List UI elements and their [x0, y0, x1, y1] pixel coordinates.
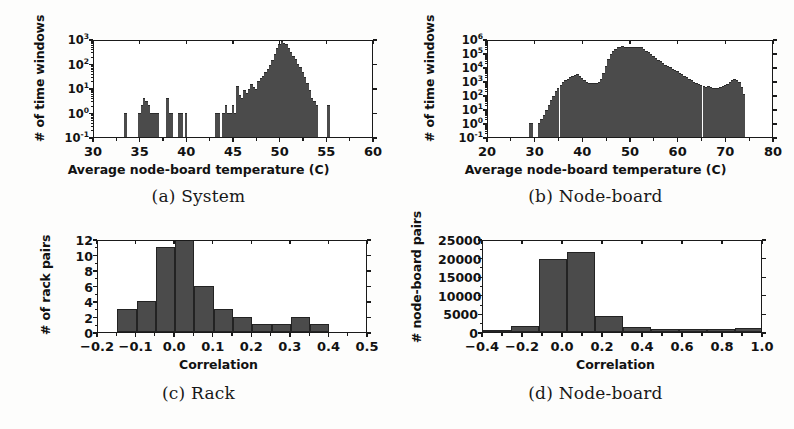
x-tick [279, 138, 280, 142]
panel-c-y-axis-title: # of rack pairs [38, 235, 53, 335]
y-minor-tick [485, 101, 488, 102]
y-minor-tick [485, 131, 488, 132]
x-tick [601, 333, 602, 337]
y-tick-label: 103 [49, 33, 89, 47]
y-tick-label: 2 [53, 310, 93, 325]
x-tick-top [139, 40, 140, 44]
y-tick-right [367, 301, 371, 302]
bar [124, 113, 126, 138]
y-tick-label: 20000 [438, 251, 478, 266]
y-minor-tick [91, 49, 94, 50]
x-minor-tick [349, 138, 350, 141]
x-tick-label: 50 [271, 144, 289, 159]
x-tick-top [173, 240, 174, 244]
x-tick [521, 333, 522, 337]
panel-b-caption: (b) Node-board [397, 186, 794, 206]
y-minor-tick [91, 69, 94, 70]
x-tick-label: −0.2 [505, 339, 539, 354]
x-minor-tick [558, 138, 559, 141]
y-minor-tick [91, 94, 94, 95]
y-tick-label: 10 [53, 248, 93, 263]
bar [185, 113, 187, 138]
y-tick-label: 10-1 [49, 131, 89, 145]
y-minor-tick [91, 106, 94, 107]
x-minor-tick [701, 138, 702, 141]
bar [214, 309, 233, 332]
y-tick-label: 8 [53, 264, 93, 279]
y-tick [93, 286, 97, 287]
x-tick [366, 333, 367, 337]
x-tick-label: 0.0 [550, 339, 573, 354]
x-tick-label: −0.2 [80, 339, 114, 354]
y-minor-tick [485, 63, 488, 64]
y-minor-tick [485, 86, 488, 87]
panel-c: # of rack pairs 024681012 −0.2−0.10.00.1… [0, 215, 397, 429]
x-tick-label: 0.5 [355, 339, 378, 354]
y-minor-tick [91, 45, 94, 46]
x-minor-tick [606, 138, 607, 141]
bar [291, 317, 310, 333]
y-minor-tick [485, 119, 488, 120]
bar [327, 105, 329, 137]
bar [511, 326, 539, 332]
x-minor-tick [302, 138, 303, 141]
x-tick-top [279, 40, 280, 44]
x-tick-top [582, 40, 583, 44]
panel-a-bars [94, 41, 372, 137]
y-minor-tick [485, 128, 488, 129]
x-tick-label: −0.1 [119, 339, 153, 354]
y-minor-tick [91, 52, 94, 53]
y-tick-right [367, 317, 371, 318]
bar [743, 94, 745, 137]
y-minor-tick [91, 65, 94, 66]
x-tick-top [212, 240, 213, 244]
panel-d-caption: (d) Node-board [397, 383, 794, 403]
y-minor-tick [95, 263, 98, 264]
x-tick-top [96, 240, 97, 244]
y-minor-tick [485, 68, 488, 69]
x-minor-tick [231, 333, 232, 336]
y-minor-tick [485, 103, 488, 104]
x-tick-label: 80 [764, 144, 782, 159]
panel-a: # of time windows 10-1100101102103 30354… [0, 0, 397, 215]
bar [623, 327, 651, 332]
y-minor-tick [91, 57, 94, 58]
panel-b-y-axis-title: # of time windows [422, 15, 437, 142]
x-tick-top [725, 40, 726, 44]
x-tick-label: 35 [131, 144, 149, 159]
bar [137, 301, 156, 332]
bar [156, 247, 175, 332]
y-tick-label: 10-1 [443, 131, 483, 145]
x-minor-tick [741, 333, 742, 336]
x-tick [681, 333, 682, 337]
bar [180, 113, 182, 138]
x-tick-label: 0.2 [240, 339, 263, 354]
y-tick-right [762, 258, 766, 259]
y-minor-tick [485, 57, 488, 58]
x-tick-top [534, 40, 535, 44]
y-tick-label: 5000 [438, 307, 478, 322]
y-minor-tick [91, 98, 94, 99]
x-minor-tick [541, 333, 542, 336]
panel-a-y-axis-title: # of time windows [32, 15, 47, 142]
bar [233, 317, 252, 333]
y-minor-tick [480, 305, 483, 306]
x-tick [139, 138, 140, 142]
x-minor-tick [581, 333, 582, 336]
y-tick-label: 106 [443, 33, 483, 47]
panel-d-plot-area [482, 240, 762, 333]
y-minor-tick [91, 77, 94, 78]
y-tick-label: 15000 [438, 270, 478, 285]
y-minor-tick [485, 113, 488, 114]
x-tick [641, 333, 642, 337]
y-minor-tick [91, 117, 94, 118]
x-tick [173, 333, 174, 337]
x-tick-label: 60 [364, 144, 382, 159]
x-tick-top [328, 240, 329, 244]
x-tick-top [641, 240, 642, 244]
panel-c-plot-area [97, 240, 367, 333]
panel-c-caption: (c) Rack [0, 383, 397, 403]
x-tick-label: 30 [526, 144, 544, 159]
y-tick-right [373, 113, 377, 114]
x-minor-tick [347, 333, 348, 336]
